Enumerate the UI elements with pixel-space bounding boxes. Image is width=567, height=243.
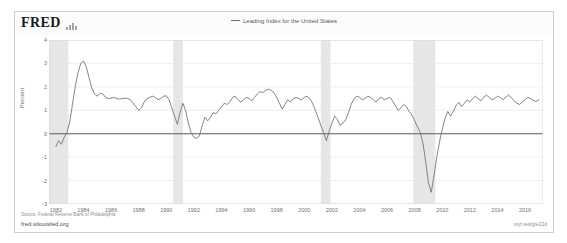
grid-lines (49, 40, 543, 204)
x-tick-label: 1990 (160, 206, 172, 214)
legend-label: Leading Index for the United States (243, 18, 337, 24)
x-tick-label: 2016 (519, 206, 531, 214)
recession-band (413, 40, 435, 204)
x-tick-label: 1992 (188, 206, 200, 214)
y-tick-label: 2 (44, 84, 47, 90)
series-line (56, 61, 539, 192)
legend-line-swatch (231, 20, 240, 21)
x-tick-label: 2010 (436, 206, 448, 214)
y-axis-label: Percent (19, 88, 25, 108)
plot-border (49, 40, 543, 204)
chart-shortlink[interactable]: myf.red/g/e22d (514, 220, 547, 228)
x-tick-label: 1988 (133, 206, 145, 214)
screenshot-root: FRED Leading Index for the United States… (0, 0, 567, 243)
chart-canvas (49, 40, 543, 204)
y-tick-label: 0 (44, 131, 47, 137)
y-tick-label: 3 (44, 60, 47, 66)
y-tick-label: 1 (44, 107, 47, 113)
plot-area: Percent 43210-1-2-3 19821984198619881990… (15, 36, 555, 234)
series-lines (56, 61, 539, 192)
x-tick-label: 1994 (215, 206, 227, 214)
x-tick-label: 1998 (271, 206, 283, 214)
y-tick-label: -2 (42, 178, 47, 184)
y-axis-ticks: 43210-1-2-3 (29, 36, 47, 204)
recession-band (321, 40, 331, 204)
recession-bands (49, 40, 435, 204)
x-tick-label: 2000 (298, 206, 310, 214)
y-tick-label: 4 (44, 37, 47, 43)
source-attribution: Source: Federal Reserve Bank of Philadel… (21, 212, 115, 218)
x-tick-label: 2012 (464, 206, 476, 214)
chart-header: FRED Leading Index for the United States (15, 12, 553, 36)
x-tick-label: 2004 (353, 206, 365, 214)
x-tick-label: 2002 (326, 206, 338, 214)
x-tick-label: 2006 (381, 206, 393, 214)
recession-band (49, 40, 68, 204)
x-axis-ticks: 1982198419861988199019921994199619982000… (49, 206, 543, 218)
fred-url[interactable]: fred.stlouisfed.org (21, 220, 69, 228)
x-tick-label: 1996 (243, 206, 255, 214)
x-tick-label: 2014 (491, 206, 503, 214)
y-tick-label: -3 (42, 201, 47, 207)
fred-chart-card: FRED Leading Index for the United States… (14, 11, 554, 233)
chart-legend: Leading Index for the United States (15, 16, 553, 26)
y-tick-label: -1 (42, 154, 47, 160)
x-tick-label: 2008 (409, 206, 421, 214)
